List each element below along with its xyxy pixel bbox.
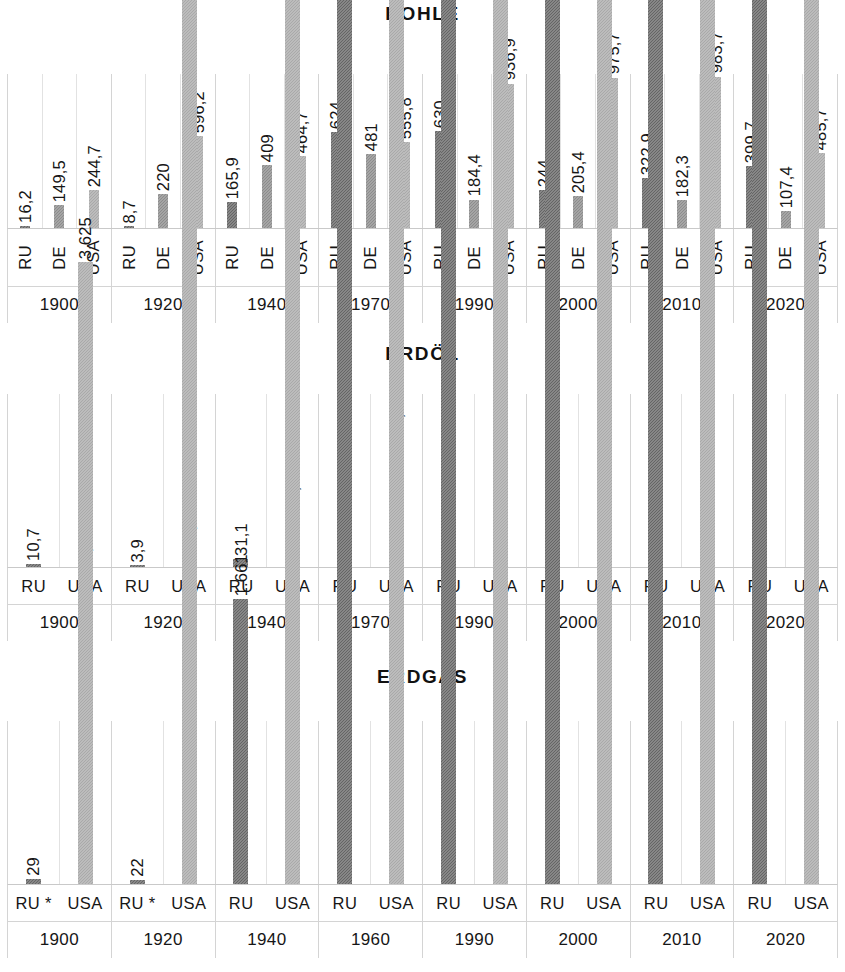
series-label-de: DE — [665, 229, 699, 286]
series-label-text: RU — [17, 245, 34, 270]
bar-value-label: 107,4 — [777, 166, 794, 208]
series-label-usa: USA — [682, 885, 733, 921]
bar-wrap: 220 — [146, 74, 180, 228]
bar-group: 165,9409464,7 — [216, 74, 320, 228]
bar-de-1970 — [366, 154, 376, 228]
bar-slot: 107,4 — [769, 74, 804, 228]
bar-group: 322,9182,3983,7 — [631, 74, 735, 228]
bar-group: 2222.993 — [112, 721, 216, 884]
bar-usa-2020 — [804, 0, 819, 884]
series-label-ru: RU — [631, 885, 682, 921]
bar-slot: 915.899 — [786, 721, 837, 884]
series-label-group: RU *USA — [112, 885, 216, 921]
series-label-group: RUDEUSA — [631, 229, 735, 286]
bar-de-1920 — [158, 194, 168, 228]
bar-group: 599.589483.377 — [423, 721, 527, 884]
chart-title-erdoel: ERDÖL — [0, 320, 845, 363]
bar-slot: 29 — [8, 721, 60, 884]
series-label-group: RUUSA — [527, 568, 631, 604]
bar-ru-2020 — [752, 0, 767, 884]
series-label-group: RUUSA — [423, 568, 527, 604]
series-label-group: RUUSA — [527, 885, 631, 921]
series-label-usa: USA — [371, 885, 422, 921]
bar-group: 10,78,5 — [8, 394, 112, 567]
bar-usa-1940 — [285, 0, 300, 884]
series-label-text: RU — [333, 894, 358, 913]
year-label-1990: 1990 — [423, 287, 527, 323]
series-label-text: RU — [748, 894, 773, 913]
series-label-ru: RU — [112, 229, 146, 286]
series-label-de: DE — [250, 229, 284, 286]
bar-wrap: 3,9 — [112, 394, 163, 567]
bar-value-label: 29 — [25, 857, 42, 876]
series-label-group: RUDEUSA — [112, 229, 216, 286]
bar-usa-1900 — [78, 262, 93, 884]
bar-de-2010 — [677, 200, 687, 228]
series-label-group: RU *USA — [8, 885, 112, 921]
series-label-text: RU — [644, 894, 669, 913]
series-label-text: RU — [125, 577, 150, 596]
series-label-group: RUDEUSA — [319, 229, 423, 286]
bar-group: 293.625 — [8, 721, 112, 884]
bar-group: 45.303361.634 — [319, 721, 423, 884]
bar-slot: 149,5 — [43, 74, 78, 228]
bar-value-label: 22 — [129, 858, 146, 877]
bar-group: 16,2149,5244,7 — [8, 74, 112, 228]
bar-slot: 220 — [146, 74, 181, 228]
bar-wrap: 107,4 — [769, 74, 803, 228]
series-label-group: RUUSA — [319, 885, 423, 921]
year-label-2020: 2020 — [734, 287, 837, 323]
bar-de-1900 — [54, 205, 64, 228]
series-label-group: RUUSA — [631, 885, 735, 921]
bar-ru-1990 — [441, 0, 456, 884]
year-label-1900: 1900 — [8, 922, 112, 958]
bar-slot: 205,4 — [561, 74, 596, 228]
bar-value-label: 409 — [259, 134, 276, 162]
bar-wrap: 481 — [354, 74, 388, 228]
bar-wrap: 599.589 — [423, 721, 474, 884]
bar-wrap: 8,7 — [112, 74, 146, 228]
series-label-group: RUUSA — [8, 568, 112, 604]
series-label-text: USA — [379, 894, 414, 913]
bar-group: 399,7107,4485,7 — [734, 74, 837, 228]
year-label-1920: 1920 — [112, 922, 216, 958]
bar-group: 3,962,1 — [112, 394, 216, 567]
series-label-group: RUUSA — [112, 568, 216, 604]
bar-slot: 182,3 — [665, 74, 700, 228]
bar-slot: 31,1 — [216, 394, 268, 567]
bar-wrap: 165,9 — [216, 74, 250, 228]
series-label-group: RUDEUSA — [734, 229, 837, 286]
chart-block-kohle: KOHLE 16,2149,5244,78,7220596,2165,94094… — [0, 0, 845, 320]
bar-slot: 8,7 — [112, 74, 147, 228]
bar-wrap: 16,2 — [8, 74, 42, 228]
plot-area-erdgas: 293.6252222.9931.66177.41845.303361.6345… — [7, 721, 838, 885]
bar-slot: 16,2 — [8, 74, 43, 228]
series-label-usa: USA — [474, 885, 525, 921]
bar-wrap: 31,1 — [216, 394, 267, 567]
bar-slot: 483.377 — [475, 721, 526, 884]
year-label-1920: 1920 — [112, 287, 216, 323]
series-label-ru: RU — [216, 229, 250, 286]
bars-container-erdgas: 293.6252222.9931.66177.41845.303361.6345… — [8, 721, 837, 884]
series-label-group: RUDEUSA — [216, 229, 320, 286]
bar-usa-1920 — [182, 0, 197, 884]
series-label-text: USA — [482, 894, 517, 913]
year-label-2000: 2000 — [527, 287, 631, 323]
bar-ru-1920 — [130, 565, 145, 567]
bar-slot: 598.386 — [631, 721, 683, 884]
bar-value-label: 165,9 — [224, 157, 241, 199]
series-label-ru: RU — [527, 885, 578, 921]
series-label-group: RUUSA — [319, 568, 423, 604]
series-label-text: RU — [436, 894, 461, 913]
series-label-text: RU — [121, 245, 138, 270]
series-label-text: DE — [777, 246, 794, 270]
series-label-text: DE — [466, 246, 483, 270]
bar-value-label: 8,7 — [120, 200, 137, 224]
bar-value-label: 3.625 — [77, 217, 94, 259]
series-label-group: RUDEUSA — [8, 229, 112, 286]
series-label-usa: USA — [163, 885, 214, 921]
year-label-2020: 2020 — [734, 605, 837, 641]
bar-wrap: 182,3 — [665, 74, 699, 228]
bar-group: 624481555,8 — [319, 74, 423, 228]
series-label-text: RU — [540, 894, 565, 913]
